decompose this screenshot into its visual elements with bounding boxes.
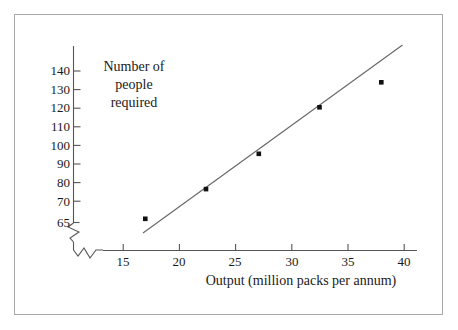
x-axis-title: Output (million packs per annum) bbox=[186, 273, 416, 289]
data-point-2 bbox=[204, 187, 209, 192]
x-tick-label-20: 20 bbox=[164, 255, 194, 268]
y-tick-label-100: 100 bbox=[36, 139, 70, 152]
data-point-1 bbox=[143, 217, 148, 222]
y-axis-title-line-1: Number of bbox=[82, 58, 186, 76]
x-tick-label-35: 35 bbox=[333, 255, 363, 268]
x-axis-ticks bbox=[123, 244, 404, 251]
y-tick-label-140: 140 bbox=[36, 64, 70, 77]
y-axis-title-line-3: required bbox=[82, 94, 186, 112]
data-point-5 bbox=[379, 80, 384, 85]
data-point-4 bbox=[317, 105, 322, 110]
y-tick-label-80: 80 bbox=[36, 176, 70, 189]
x-tick-label-25: 25 bbox=[220, 255, 250, 268]
y-tick-label-65: 65 bbox=[36, 216, 70, 229]
y-tick-label-130: 130 bbox=[36, 83, 70, 96]
y-axis-title: Number of people required bbox=[82, 58, 186, 113]
x-tick-label-30: 30 bbox=[277, 255, 307, 268]
y-tick-label-90: 90 bbox=[36, 157, 70, 170]
y-tick-label-70: 70 bbox=[36, 195, 70, 208]
x-tick-label-40: 40 bbox=[389, 255, 419, 268]
y-axis-title-line-2: people bbox=[82, 76, 186, 94]
x-tick-label-15: 15 bbox=[108, 255, 138, 268]
data-point-3 bbox=[257, 152, 262, 157]
x-axis-break-zigzag bbox=[74, 248, 104, 258]
y-axis-ticks bbox=[74, 71, 81, 223]
y-tick-label-120: 120 bbox=[36, 101, 70, 114]
y-tick-label-110: 110 bbox=[36, 120, 70, 133]
figure-page: 140 130 120 110 100 90 80 70 65 15 20 25… bbox=[0, 0, 458, 330]
